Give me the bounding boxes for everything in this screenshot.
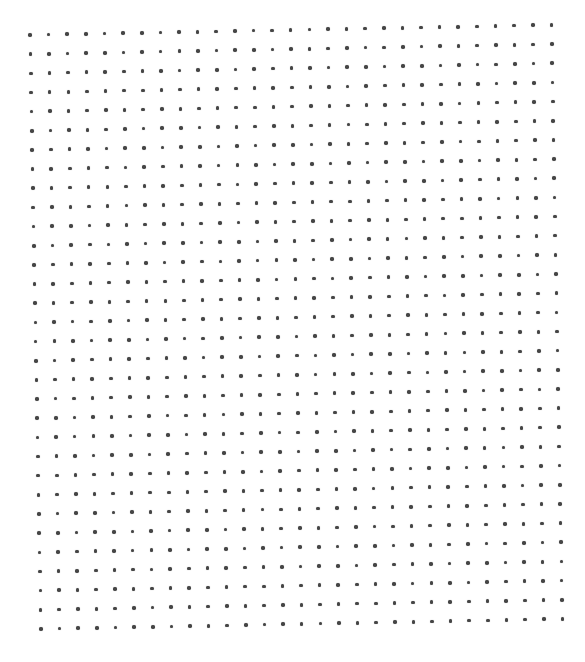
grid-dot xyxy=(198,164,202,168)
grid-dot xyxy=(270,29,274,33)
grid-dot xyxy=(352,410,356,414)
grid-dot xyxy=(423,217,427,221)
grid-dot xyxy=(181,222,185,226)
grid-dot xyxy=(186,528,190,532)
grid-dot xyxy=(521,503,525,507)
grid-dot xyxy=(140,50,144,54)
grid-dot xyxy=(354,525,358,529)
grid-dot xyxy=(326,47,330,51)
grid-dot xyxy=(347,123,351,127)
grid-dot xyxy=(143,184,147,188)
grid-dot xyxy=(243,566,247,570)
grid-dot xyxy=(166,433,170,437)
grid-dot xyxy=(290,105,294,109)
grid-dot xyxy=(440,140,444,144)
grid-dot xyxy=(263,623,267,627)
grid-dot xyxy=(30,129,34,133)
grid-dot xyxy=(49,167,53,171)
grid-dot xyxy=(85,70,89,74)
grid-dot xyxy=(494,24,498,28)
grid-dot xyxy=(439,64,443,68)
grid-dot xyxy=(257,316,261,320)
grid-dot xyxy=(182,318,186,322)
grid-dot xyxy=(314,354,318,358)
grid-dot xyxy=(107,243,111,247)
grid-dot xyxy=(523,579,527,583)
grid-dot xyxy=(48,71,52,75)
grid-dot xyxy=(444,370,448,374)
grid-dot xyxy=(496,139,500,143)
grid-dot xyxy=(427,428,431,432)
grid-dot xyxy=(484,523,488,527)
grid-dot xyxy=(485,542,489,546)
grid-dot xyxy=(164,318,168,322)
grid-dot xyxy=(70,282,74,286)
grid-dot xyxy=(405,256,409,260)
grid-dot xyxy=(75,550,79,554)
grid-dot xyxy=(109,357,113,361)
grid-dot xyxy=(216,106,220,110)
grid-dot xyxy=(260,470,264,474)
grid-dot xyxy=(464,427,468,431)
grid-dot xyxy=(88,243,92,247)
grid-dot xyxy=(110,434,114,438)
grid-dot xyxy=(447,504,451,508)
grid-dot xyxy=(199,183,203,187)
grid-dot xyxy=(345,65,349,69)
grid-dot xyxy=(393,601,397,605)
grid-dot xyxy=(461,293,465,297)
grid-dot xyxy=(410,543,414,547)
grid-dot xyxy=(159,31,163,35)
grid-dot xyxy=(391,525,395,529)
grid-dot xyxy=(317,564,321,568)
grid-dot xyxy=(349,276,353,280)
grid-dot xyxy=(216,125,220,129)
grid-dot xyxy=(439,83,443,87)
grid-dot xyxy=(386,218,390,222)
grid-dot xyxy=(534,215,538,219)
grid-dot xyxy=(422,160,426,164)
grid-dot xyxy=(67,128,71,132)
grid-dot xyxy=(74,511,78,515)
grid-dot xyxy=(103,32,107,36)
grid-dot xyxy=(475,44,479,48)
grid-dot xyxy=(520,465,524,469)
grid-dot xyxy=(382,46,386,50)
grid-dot xyxy=(354,544,358,548)
grid-dot xyxy=(539,445,543,449)
grid-dot xyxy=(85,109,89,113)
grid-dot xyxy=(522,541,526,545)
grid-dot xyxy=(183,337,187,341)
grid-dot xyxy=(483,465,487,469)
grid-dot xyxy=(349,238,353,242)
grid-dot xyxy=(73,454,77,458)
grid-dot xyxy=(402,83,406,87)
grid-dot xyxy=(66,52,70,56)
grid-dot xyxy=(170,625,174,629)
grid-dot xyxy=(244,623,248,627)
grid-dot xyxy=(87,185,91,189)
grid-dot xyxy=(538,388,542,392)
grid-dot xyxy=(550,23,554,27)
grid-dot xyxy=(485,580,489,584)
grid-dot xyxy=(106,204,110,208)
grid-dot xyxy=(480,274,484,278)
grid-dot xyxy=(560,560,564,564)
grid-dot xyxy=(109,377,113,381)
grid-dot xyxy=(242,489,246,493)
grid-dot xyxy=(58,627,62,631)
grid-dot xyxy=(258,374,262,378)
grid-dot xyxy=(382,26,386,30)
grid-dot xyxy=(411,601,415,605)
grid-dot xyxy=(351,353,355,357)
grid-dot xyxy=(215,87,219,91)
grid-dot xyxy=(384,141,388,145)
grid-dot xyxy=(239,336,243,340)
grid-dot xyxy=(371,429,375,433)
grid-dot xyxy=(48,109,52,113)
grid-dot xyxy=(67,90,71,94)
grid-dot xyxy=(67,109,71,113)
grid-dot xyxy=(552,138,556,142)
grid-dot xyxy=(296,392,300,396)
grid-dot xyxy=(166,414,170,418)
